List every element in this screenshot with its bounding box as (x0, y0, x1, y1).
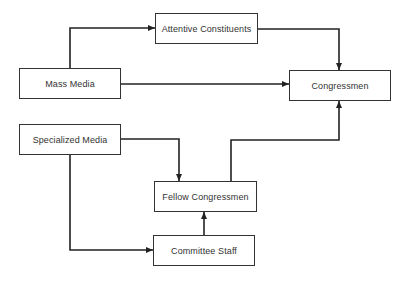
arrow-specialized-to-staff (70, 155, 153, 250)
node-specialized-media: Specialized Media (19, 124, 121, 155)
node-mass-media: Mass Media (19, 68, 121, 99)
node-label: Mass Media (45, 79, 95, 89)
node-congressmen: Congressmen (289, 70, 391, 101)
arrow-mass_media-to-attentive (70, 28, 155, 68)
node-label: Fellow Congressmen (162, 192, 248, 202)
arrow-attentive-to-congressmen (258, 29, 339, 70)
node-fellow-congressmen: Fellow Congressmen (154, 181, 257, 212)
node-attentive-constituents: Attentive Constituents (155, 13, 258, 44)
arrow-specialized-to-fellow (121, 139, 179, 181)
arrow-fellow-to-congressmen (231, 101, 339, 181)
node-label: Committee Staff (171, 246, 237, 256)
node-label: Attentive Constituents (162, 24, 252, 34)
node-label: Specialized Media (33, 135, 108, 145)
node-label: Congressmen (311, 81, 368, 91)
communication-flow-diagram: Attentive Constituents Mass Media Congre… (0, 0, 408, 284)
node-committee-staff: Committee Staff (153, 235, 255, 266)
